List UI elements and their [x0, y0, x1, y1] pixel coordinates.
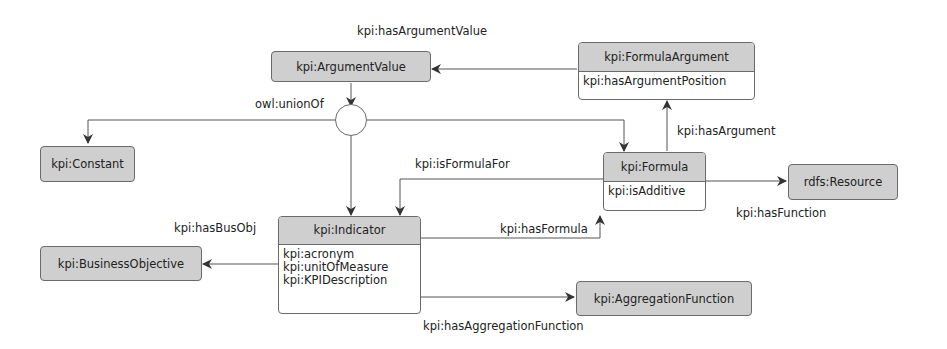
node-title: rdfs:Resource	[804, 175, 882, 189]
node-attribute: kpi:hasArgumentPosition	[579, 71, 754, 91]
node-argument-value[interactable]: kpi:ArgumentValue	[271, 51, 431, 82]
node-attribute: kpi:KPIDescription	[283, 274, 416, 287]
node-title: kpi:FormulaArgument	[579, 43, 754, 71]
node-title: kpi:BusinessObjective	[58, 257, 184, 271]
node-title: kpi:AggregationFunction	[594, 292, 734, 306]
edge-label-has-bus-obj: kpi:hasBusObj	[174, 221, 256, 235]
node-title: kpi:Constant	[51, 157, 124, 171]
node-indicator[interactable]: kpi:Indicator kpi:acronym kpi:unitOfMeas…	[278, 216, 421, 314]
ontology-diagram: kpi:ArgumentValue kpi:FormulaArgument kp…	[0, 0, 947, 349]
edge-union-to-constant	[88, 120, 335, 143]
edge-label-is-formula-for: kpi:isFormulaFor	[415, 157, 510, 171]
edge-label-has-aggregation-function: kpi:hasAggregationFunction	[423, 319, 584, 333]
node-title: kpi:Formula	[604, 153, 705, 181]
edge-label-has-formula: kpi:hasFormula	[500, 222, 588, 236]
edge-union-to-formula	[367, 120, 624, 151]
node-title: kpi:ArgumentValue	[296, 60, 406, 74]
node-formula[interactable]: kpi:Formula kpi:isAdditive	[603, 152, 706, 211]
node-resource[interactable]: rdfs:Resource	[788, 164, 898, 200]
node-constant[interactable]: kpi:Constant	[40, 146, 135, 182]
edge-label-has-function: kpi:hasFunction	[736, 206, 826, 220]
node-formula-argument[interactable]: kpi:FormulaArgument kpi:hasArgumentPosit…	[578, 42, 755, 100]
edge-label-has-argument-value: kpi:hasArgumentValue	[357, 24, 487, 38]
edge-label-union-of: owl:unionOf	[255, 97, 324, 111]
edge-label-has-argument: kpi:hasArgument	[677, 124, 775, 138]
node-business-objective[interactable]: kpi:BusinessObjective	[40, 246, 202, 281]
union-of-circle	[335, 104, 367, 136]
node-title: kpi:Indicator	[279, 217, 420, 244]
node-aggregation-function[interactable]: kpi:AggregationFunction	[576, 281, 752, 316]
edge-is-formula-for	[400, 179, 603, 215]
node-attribute: kpi:isAdditive	[604, 181, 705, 201]
